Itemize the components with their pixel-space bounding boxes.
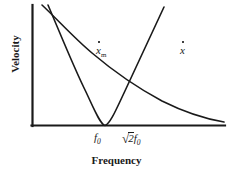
- x-axis-label: Frequency: [0, 154, 233, 166]
- tick-sqrt2f0-sub: 0: [137, 138, 141, 147]
- curve-label-x-dot: x: [180, 44, 185, 56]
- velocity-frequency-figure: Velocity Frequency f0 √2f0 xm x: [0, 0, 233, 175]
- y-axis-label: Velocity: [9, 19, 21, 89]
- radical-sign: √: [122, 131, 129, 146]
- curve-x-dot-m: [42, 5, 224, 122]
- tick-f0-sub: 0: [97, 137, 101, 146]
- curve-label-x-dot-m: xm: [96, 44, 106, 59]
- plot-canvas: [0, 0, 233, 175]
- x-dot-variable: x: [180, 44, 185, 56]
- x-tick-label-sqrt2f0: √2f0: [121, 130, 140, 147]
- x-tick-label-f0: f0: [94, 131, 101, 146]
- sqrt-group: √2: [121, 130, 134, 146]
- x-dot-m-variable: x: [96, 44, 101, 56]
- x-dot-m-subscript: m: [101, 51, 106, 59]
